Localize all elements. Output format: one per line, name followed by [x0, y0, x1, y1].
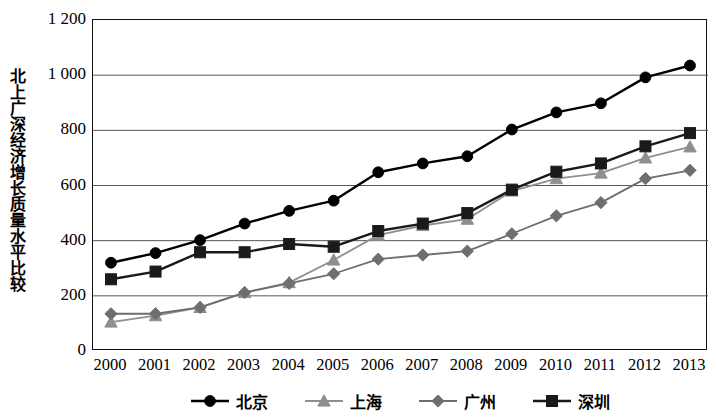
data-point: [417, 249, 429, 261]
legend-item[interactable]: 上海: [304, 389, 382, 413]
data-point: [551, 107, 562, 118]
data-point: [327, 254, 339, 265]
y-axis-tick-label: 1 000: [48, 64, 86, 84]
data-point: [195, 247, 206, 258]
legend-circle-icon: [190, 392, 230, 410]
data-point: [373, 226, 384, 237]
x-axis-tick-label: 2006: [361, 355, 394, 375]
x-axis-tick-label: 2003: [227, 355, 260, 375]
data-point: [106, 274, 117, 285]
plot-area: [92, 19, 707, 350]
y-axis-tick-labels: 1 2001 0008006004002000: [28, 0, 90, 370]
data-point: [684, 141, 696, 152]
chart-legend: 北京上海广州深圳: [92, 386, 707, 416]
x-axis-tick-label: 2009: [494, 355, 527, 375]
data-point: [506, 124, 517, 135]
data-point: [506, 228, 518, 240]
data-point: [462, 151, 473, 162]
data-point: [284, 238, 295, 249]
legend-label: 上海: [350, 389, 382, 413]
y-axis-tick-label: 800: [61, 119, 87, 139]
y-axis-tick-label: 1 200: [48, 9, 86, 29]
x-axis-tick-label: 2000: [94, 355, 127, 375]
data-point: [239, 247, 250, 258]
data-point: [328, 195, 339, 206]
data-point: [595, 158, 606, 169]
gridlines: [93, 75, 708, 296]
data-point: [284, 205, 295, 216]
y-axis-tick-label: 400: [61, 230, 87, 250]
legend-label: 深圳: [578, 389, 610, 413]
x-axis-tick-label: 2011: [584, 355, 616, 375]
series-canvas: [93, 20, 708, 351]
data-point: [195, 235, 206, 246]
legend-item[interactable]: 深圳: [532, 389, 610, 413]
data-point: [551, 166, 562, 177]
legend-square-icon: [532, 392, 572, 410]
data-point: [685, 60, 696, 71]
data-point: [150, 248, 161, 259]
x-axis-tick-label: 2002: [183, 355, 216, 375]
data-point: [640, 141, 651, 152]
x-axis-tick-label: 2005: [316, 355, 349, 375]
x-axis-tick-label: 2001: [138, 355, 171, 375]
data-point: [595, 197, 607, 209]
data-point: [639, 173, 651, 185]
data-point: [417, 158, 428, 169]
chart-figure: 北上广深经济增长质量水平比较 1 2001 0008006004002000 2…: [0, 0, 717, 418]
x-axis-tick-label: 2013: [673, 355, 706, 375]
data-point: [106, 257, 117, 268]
data-point: [685, 128, 696, 139]
legend-label: 广州: [464, 389, 496, 413]
data-point: [372, 253, 384, 265]
data-point: [462, 208, 473, 219]
data-point: [461, 245, 473, 257]
series-4: [106, 128, 696, 285]
data-point: [150, 266, 161, 277]
y-axis-tick-label: 600: [61, 175, 87, 195]
data-point: [373, 167, 384, 178]
x-axis-tick-label: 2004: [272, 355, 305, 375]
data-point: [239, 218, 250, 229]
legend-item[interactable]: 广州: [418, 389, 496, 413]
legend-diamond-icon: [418, 392, 458, 410]
legend-item[interactable]: 北京: [190, 389, 268, 413]
series-1: [106, 60, 696, 268]
data-point: [684, 164, 696, 176]
x-axis-tick-label: 2007: [405, 355, 438, 375]
y-axis-tick-label: 200: [61, 285, 87, 305]
legend-label: 北京: [236, 389, 268, 413]
data-point: [328, 241, 339, 252]
x-axis-tick-label: 2012: [628, 355, 661, 375]
data-point: [596, 98, 607, 109]
data-point: [328, 268, 340, 280]
legend-triangle-icon: [304, 392, 344, 410]
x-axis-tick-label: 2010: [539, 355, 572, 375]
x-axis-tick-labels: 2000200120022003200420052006200720082009…: [92, 352, 707, 378]
data-point: [105, 308, 117, 320]
y-axis-tick-label: 0: [78, 340, 87, 360]
data-point: [550, 210, 562, 222]
y-axis-title: 北上广深经济增长质量水平比较: [2, 0, 30, 360]
data-point: [506, 184, 517, 195]
data-point: [640, 72, 651, 83]
x-axis-tick-label: 2008: [450, 355, 483, 375]
data-point: [417, 218, 428, 229]
